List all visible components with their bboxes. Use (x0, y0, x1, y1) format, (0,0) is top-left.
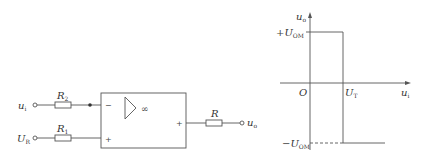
resistor-r1 (55, 135, 71, 141)
opamp-plus-input-sign: + (105, 135, 112, 144)
opamp-gain-infinity: ∞ (141, 104, 149, 114)
output-uo-terminal (240, 121, 244, 125)
opamp-minus-sign: − (105, 101, 112, 110)
pos-uom-label: +UOM (276, 27, 304, 39)
input-ui-terminal (33, 103, 37, 107)
transfer-characteristic-chart: uo ui O +UOM UT −UOM (276, 11, 411, 150)
y-axis-arrow-icon (308, 12, 312, 18)
junction-dot (88, 103, 92, 107)
r1-label: R1 (56, 123, 68, 135)
output-uo-label: uo (247, 117, 257, 129)
opamp-box (101, 93, 186, 148)
origin-label: O (299, 87, 307, 98)
input-ur-terminal (33, 136, 37, 140)
x-axis-arrow-icon (405, 81, 411, 85)
ut-label: UT (345, 87, 357, 99)
x-axis-label: ui (401, 87, 409, 99)
comparator-circuit: ui R2 UR R1 − + + ∞ R u (17, 90, 257, 148)
input-ur-label: UR (17, 133, 30, 145)
resistor-r-out (206, 120, 222, 126)
neg-uom-label: −UOM (282, 138, 310, 150)
input-ui-label: ui (18, 100, 26, 112)
resistor-r2 (55, 102, 71, 108)
r-out-label: R (210, 108, 219, 119)
opamp-plus-output-sign: + (176, 119, 183, 128)
diagram-canvas: ui R2 UR R1 − + + ∞ R u (0, 0, 426, 163)
opamp-triangle-icon (125, 97, 136, 119)
y-axis-label: uo (296, 11, 306, 23)
r2-label: R2 (56, 90, 69, 102)
